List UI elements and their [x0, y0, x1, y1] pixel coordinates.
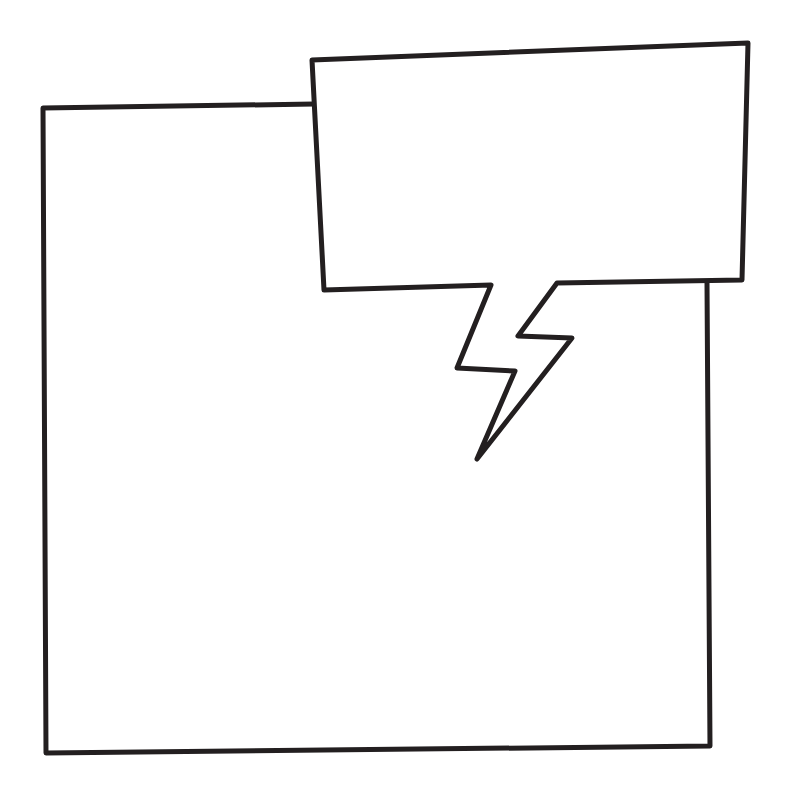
- speech-bubble: [312, 43, 748, 459]
- comic-drawing: [0, 0, 790, 810]
